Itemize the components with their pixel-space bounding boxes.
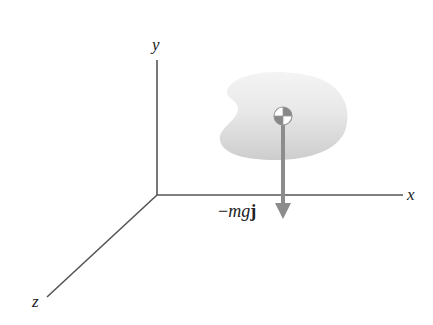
y-axis-label: y xyxy=(150,35,160,54)
weight-force-label: −mgj xyxy=(218,201,256,221)
x-axis-label: x xyxy=(406,185,415,204)
center-of-mass-icon xyxy=(274,107,292,125)
free-body-diagram: y x z −mgj xyxy=(0,0,433,325)
z-axis xyxy=(47,195,157,297)
z-axis-label: z xyxy=(31,292,39,311)
coordinate-axes xyxy=(47,60,403,297)
